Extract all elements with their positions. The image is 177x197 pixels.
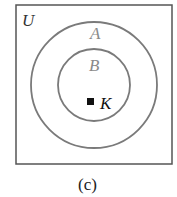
- element-marker-square: [87, 98, 94, 105]
- set-a-label: A: [89, 24, 101, 43]
- set-b-label: B: [89, 56, 100, 75]
- element-label: K: [99, 94, 113, 113]
- figure-caption: (c): [78, 175, 97, 194]
- universe-label: U: [22, 11, 36, 30]
- venn-diagram: U A B K (c): [0, 0, 177, 197]
